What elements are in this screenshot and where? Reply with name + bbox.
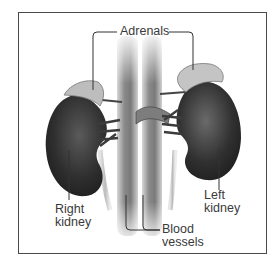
label-adrenals-text: Adrenals [120,25,169,38]
kidney-anatomy-illustration [0,0,277,271]
label-right-kidney-line2: kidney [55,216,91,229]
label-left-kidney-line2: kidney [204,202,240,215]
label-blood-vessels-line2: vessels [162,236,204,249]
adrenals-leader-right [169,32,193,70]
label-blood-vessels: Blood vessels [162,223,204,249]
label-right-kidney: Right kidney [55,203,91,229]
blood-vessels-graphic [110,30,170,245]
label-adrenals: Adrenals [120,25,169,38]
label-left-kidney: Left kidney [204,189,240,215]
